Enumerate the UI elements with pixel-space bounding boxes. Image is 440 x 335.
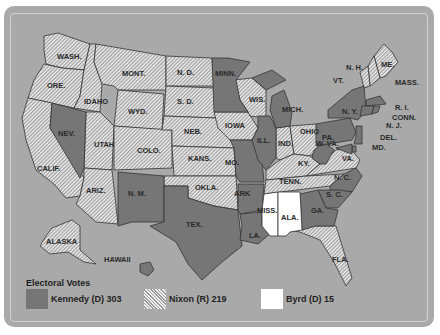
- svg-text:COLO.: COLO.: [137, 146, 161, 155]
- svg-text:KY.: KY.: [298, 159, 310, 168]
- svg-text:IDAHO: IDAHO: [84, 97, 108, 106]
- svg-text:N. M.: N. M.: [128, 189, 146, 198]
- svg-text:WASH.: WASH.: [57, 52, 82, 61]
- svg-text:S. C.: S. C.: [326, 190, 343, 199]
- kennedy-swatch: [26, 289, 48, 309]
- svg-text:ALA.: ALA.: [281, 213, 299, 222]
- state-hawaii: [140, 262, 154, 276]
- svg-text:FLA.: FLA.: [332, 255, 349, 264]
- svg-text:OHIO: OHIO: [300, 127, 319, 136]
- svg-text:MICH.: MICH.: [282, 105, 303, 114]
- kennedy-label: Kennedy (D) 303: [51, 294, 122, 304]
- svg-text:R. I.: R. I.: [395, 103, 409, 112]
- byrd-label: Byrd (D) 15: [286, 294, 334, 304]
- svg-text:S. D.: S. D.: [177, 97, 194, 106]
- svg-text:TENN.: TENN.: [279, 177, 302, 186]
- nixon-swatch: [144, 289, 166, 309]
- svg-text:MO.: MO.: [225, 158, 239, 167]
- svg-text:N. C.: N. C.: [334, 173, 351, 182]
- svg-text:ORE.: ORE.: [47, 81, 65, 90]
- svg-text:NEB.: NEB.: [184, 127, 202, 136]
- svg-text:ALASKA: ALASKA: [46, 237, 78, 246]
- svg-text:UTAH: UTAH: [94, 140, 114, 149]
- legend-byrd: Byrd (D) 15: [261, 288, 334, 310]
- svg-text:N. H.: N. H.: [346, 63, 363, 72]
- svg-text:N. D.: N. D.: [177, 68, 194, 77]
- svg-text:NEV.: NEV.: [58, 129, 75, 138]
- svg-text:VA.: VA.: [342, 154, 354, 163]
- svg-text:ARIZ.: ARIZ.: [86, 186, 106, 195]
- state-nj: [354, 126, 362, 144]
- state-mont: [94, 44, 166, 90]
- svg-text:LA.: LA.: [249, 231, 261, 240]
- svg-text:ME.: ME.: [381, 60, 394, 69]
- svg-text:VT.: VT.: [333, 76, 344, 85]
- svg-text:KANS.: KANS.: [188, 154, 211, 163]
- svg-text:N. Y.: N. Y.: [342, 107, 358, 116]
- svg-text:IOWA: IOWA: [225, 121, 246, 130]
- svg-text:ILL.: ILL.: [257, 136, 270, 145]
- svg-text:MD.: MD.: [372, 143, 386, 152]
- svg-text:ARK: ARK: [234, 189, 251, 198]
- svg-text:MISS.: MISS.: [257, 206, 277, 215]
- byrd-swatch: [261, 289, 283, 309]
- nixon-label: Nixon (R) 219: [169, 294, 227, 304]
- svg-text:GA.: GA.: [311, 206, 324, 215]
- state-fla: [286, 222, 352, 286]
- svg-text:OKLA.: OKLA.: [195, 183, 218, 192]
- svg-text:IND.: IND.: [278, 139, 293, 148]
- svg-text:WIS.: WIS.: [249, 95, 265, 104]
- svg-text:N. J.: N. J.: [386, 121, 402, 130]
- svg-text:MONT.: MONT.: [122, 69, 145, 78]
- state-conn: [360, 106, 374, 116]
- svg-text:DEL.: DEL.: [380, 133, 397, 142]
- svg-text:CALIF.: CALIF.: [37, 164, 60, 173]
- svg-text:PA.: PA.: [322, 133, 334, 142]
- svg-text:TEX.: TEX.: [186, 220, 203, 229]
- legend-nixon: Nixon (R) 219: [144, 288, 227, 310]
- svg-text:MASS.: MASS.: [395, 78, 419, 87]
- svg-text:WYD.: WYD.: [128, 107, 148, 116]
- legend-kennedy: Kennedy (D) 303: [26, 288, 122, 310]
- legend-title: Electoral Votes: [26, 278, 90, 288]
- svg-text:HAWAII: HAWAII: [104, 255, 131, 264]
- state-del: [352, 146, 356, 152]
- state-mass: [366, 96, 386, 106]
- state-nm: [118, 172, 164, 226]
- svg-text:MINN.: MINN.: [215, 69, 236, 78]
